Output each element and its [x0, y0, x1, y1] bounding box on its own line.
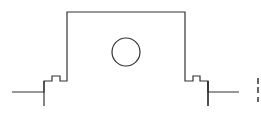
diagram-canvas — [0, 0, 261, 118]
center-hole-circle — [112, 38, 140, 66]
body-outline — [12, 12, 239, 92]
